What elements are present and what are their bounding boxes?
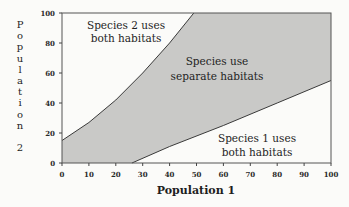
x-tick-label: 20 xyxy=(111,170,121,179)
x-tick-label: 60 xyxy=(219,170,229,179)
y-axis-title-letter: l xyxy=(18,64,21,75)
x-tick-label: 10 xyxy=(84,170,94,179)
x-tick-label: 40 xyxy=(165,170,175,179)
y-tick-label: 0 xyxy=(50,159,55,168)
y-axis-title-letter: o xyxy=(17,109,23,120)
x-tick-label: 80 xyxy=(272,170,282,179)
y-axis-title-letter: o xyxy=(17,30,23,41)
y-axis-title-letter: a xyxy=(17,75,23,86)
y-axis: 020406080100 xyxy=(40,9,62,168)
y-tick-label: 40 xyxy=(45,99,55,108)
y-axis-title-letter: t xyxy=(18,86,22,97)
y-tick-label: 80 xyxy=(45,39,55,48)
y-axis-title: Population2 xyxy=(17,19,24,153)
y-axis-title-letter: i xyxy=(18,97,21,108)
region-label-separate-line1: Species use xyxy=(186,55,249,67)
region-label-species1-line2: both habitats xyxy=(222,146,293,158)
region-label-species2-line2: both habitats xyxy=(91,32,162,44)
y-axis-title-letter: u xyxy=(17,53,24,64)
region-label-species1-line1: Species 1 uses xyxy=(218,132,296,144)
y-axis-title-letter: 2 xyxy=(17,142,23,153)
y-tick-label: 20 xyxy=(45,129,55,138)
x-tick-label: 50 xyxy=(192,170,202,179)
y-axis-title-letter: n xyxy=(17,120,24,131)
x-axis-title: Population 1 xyxy=(157,184,235,197)
y-tick-label: 100 xyxy=(40,9,55,18)
region-label-species2-line1: Species 2 uses xyxy=(87,19,165,31)
x-tick-label: 70 xyxy=(245,170,255,179)
region-label-separate-line2: separate habitats xyxy=(171,70,264,82)
y-tick-label: 60 xyxy=(45,69,55,78)
x-axis: 0102030405060708090100 xyxy=(60,163,339,179)
y-axis-title-letter: p xyxy=(17,41,23,52)
x-tick-label: 100 xyxy=(324,170,339,179)
x-tick-label: 30 xyxy=(138,170,148,179)
chart: 0102030405060708090100 020406080100 Spec… xyxy=(0,0,349,207)
y-axis-title-letter: P xyxy=(17,19,24,30)
x-tick-label: 90 xyxy=(299,170,309,179)
x-tick-label: 0 xyxy=(60,170,65,179)
